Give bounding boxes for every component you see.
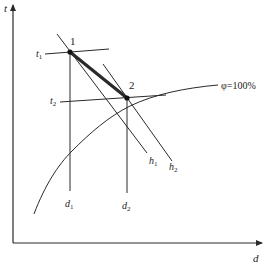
t-axis-label: t <box>4 2 8 14</box>
state-point-2 <box>124 95 129 100</box>
enthalpy-line-h2 <box>103 64 172 161</box>
moisture-line-d2-label: d2 <box>122 200 131 213</box>
d-axis-label: d <box>253 252 259 264</box>
state-point-2-label: 2 <box>129 79 135 91</box>
state-point-1-label: 1 <box>70 35 76 47</box>
isotherm-t1 <box>45 49 109 54</box>
enthalpy-line-h2-label: h2 <box>169 161 178 174</box>
saturation-curve-label: φ=100% <box>221 80 256 91</box>
isotherm-t1-label: t1 <box>36 48 43 61</box>
state-point-1 <box>67 49 72 54</box>
isotherm-t2-label: t2 <box>50 95 57 108</box>
moisture-line-d1-label: d1 <box>65 198 74 211</box>
process-line <box>70 52 127 98</box>
psychrometric-diagram: t d φ=100% t1 t2 d1 d2 h1 h2 1 2 <box>0 0 274 272</box>
saturation-curve <box>34 85 218 214</box>
enthalpy-line-h1-label: h1 <box>149 155 158 168</box>
